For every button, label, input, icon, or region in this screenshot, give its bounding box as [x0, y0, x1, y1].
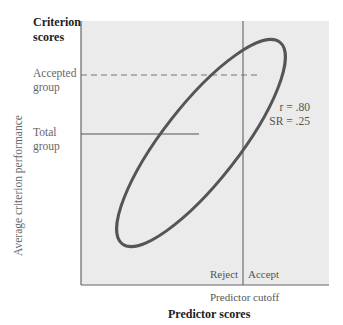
accepted-label-line-2: group: [33, 80, 76, 94]
y-header-line-2: scores: [33, 30, 81, 45]
accepted-label-line-1: Accepted: [33, 66, 76, 80]
total-label-line-1: Total: [33, 125, 60, 139]
total-group-label: Total group: [33, 125, 60, 153]
diagram-canvas: [0, 0, 343, 325]
y-header-line-1: Criterion: [33, 15, 81, 30]
correlation-value: r = .80: [260, 100, 310, 114]
selection-ratio-value: SR = .25: [260, 114, 310, 128]
reject-label: Reject: [210, 268, 238, 280]
accept-label: Accept: [248, 268, 279, 280]
stats-annotation: r = .80 SR = .25: [260, 100, 310, 128]
accepted-group-label: Accepted group: [33, 66, 76, 94]
y-axis-title: Average criterion performance: [12, 116, 24, 256]
predictor-cutoff-label: Predictor cutoff: [210, 291, 279, 303]
plot-area: [81, 21, 329, 285]
y-axis-header: Criterion scores: [33, 15, 81, 45]
total-label-line-2: group: [33, 139, 60, 153]
x-axis-title: Predictor scores: [168, 307, 250, 322]
